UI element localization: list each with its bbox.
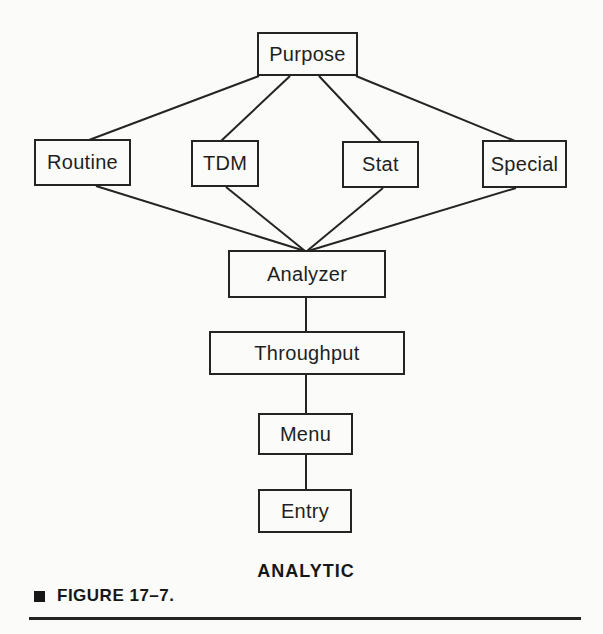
node-purpose-label: Purpose [269, 43, 346, 66]
figure-page: Purpose Routine TDM Stat Special Analyze… [0, 0, 603, 634]
node-stat: Stat [342, 141, 419, 188]
node-menu-label: Menu [280, 423, 331, 446]
square-bullet-icon [34, 591, 45, 602]
node-tdm-label: TDM [203, 152, 247, 175]
node-special-label: Special [491, 153, 559, 176]
node-tdm: TDM [191, 140, 259, 187]
node-menu: Menu [258, 413, 353, 455]
figure-caption-text: FIGURE 17–7. [57, 586, 175, 606]
node-throughput-label: Throughput [254, 342, 359, 365]
node-stat-label: Stat [362, 153, 399, 176]
node-special: Special [482, 140, 567, 188]
node-routine: Routine [34, 139, 131, 186]
edge-stat-analyzer [307, 188, 383, 251]
bottom-rule [29, 617, 581, 620]
edge-tdm-analyzer [226, 187, 305, 251]
node-analyzer: Analyzer [228, 250, 386, 298]
edge-special-analyzer [308, 188, 516, 251]
edge-routine-analyzer [96, 186, 305, 251]
node-routine-label: Routine [47, 151, 118, 174]
edge-purpose-special [356, 76, 515, 141]
node-entry-label: Entry [281, 500, 329, 523]
connector-lines [0, 0, 603, 634]
node-entry: Entry [258, 489, 352, 533]
edge-purpose-stat [319, 76, 381, 142]
diagram-title: ANALYTIC [156, 561, 456, 582]
figure-caption: FIGURE 17–7. [34, 586, 175, 606]
node-throughput: Throughput [209, 331, 405, 375]
node-analyzer-label: Analyzer [267, 263, 347, 286]
node-purpose: Purpose [257, 32, 358, 76]
